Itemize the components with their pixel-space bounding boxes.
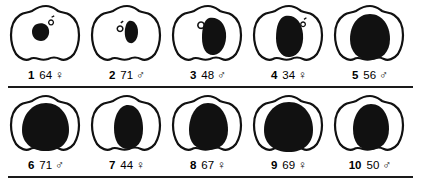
specimen-age: 44 <box>120 159 133 171</box>
specimen-8-drawing <box>168 92 248 154</box>
row-divider-1 <box>8 86 413 88</box>
specimen-1: 164♀ <box>6 0 86 86</box>
specimen-4: 434♀ <box>249 0 329 86</box>
specimen-10-drawing <box>330 92 410 154</box>
specimen-6-drawing <box>6 92 86 154</box>
specimen-number: 6 <box>28 159 34 171</box>
specimen-5: 556♂ <box>330 0 410 86</box>
specimen-age: 34 <box>282 69 295 81</box>
specimen-4-caption: 434♀ <box>249 69 329 81</box>
specimen-number: 2 <box>109 69 115 81</box>
specimen-sex-symbol: ♂ <box>55 158 64 172</box>
specimen-6: 671♂ <box>6 90 86 176</box>
specimen-sex-symbol: ♀ <box>136 158 145 172</box>
specimen-number: 3 <box>190 69 196 81</box>
specimen-fill-region <box>202 18 226 55</box>
specimen-fill-region <box>276 16 303 57</box>
specimen-fill-region <box>350 14 390 60</box>
specimen-age: 64 <box>39 69 52 81</box>
specimen-sex-symbol: ♂ <box>382 158 391 172</box>
specimen-sex-symbol: ♂ <box>217 68 226 82</box>
specimen-9-drawing <box>249 92 329 154</box>
specimen-age: 71 <box>120 69 133 81</box>
specimen-notch-icon <box>198 22 204 28</box>
specimen-age: 50 <box>367 159 380 171</box>
specimen-1-drawing <box>6 2 86 64</box>
specimen-3: 348♂ <box>168 0 248 86</box>
specimen-5-drawing <box>330 2 410 64</box>
specimen-sex-symbol: ♀ <box>298 158 307 172</box>
specimen-9: 969♀ <box>249 90 329 176</box>
specimen-sex-symbol: ♀ <box>298 68 307 82</box>
specimen-number: 8 <box>190 159 196 171</box>
specimen-8: 867♀ <box>168 90 248 176</box>
specimen-fill-region <box>189 103 228 150</box>
specimen-age: 69 <box>282 159 295 171</box>
specimen-notch-icon <box>301 18 307 27</box>
specimen-2-drawing <box>87 2 167 64</box>
specimen-4-drawing <box>249 2 329 64</box>
specimen-2: 271♂ <box>87 0 167 86</box>
specimen-number: 4 <box>271 69 277 81</box>
specimen-number: 9 <box>271 159 277 171</box>
specimen-number: 10 <box>349 159 362 171</box>
specimen-age: 71 <box>39 159 52 171</box>
row-divider-2 <box>8 176 413 178</box>
specimen-number: 5 <box>352 69 358 81</box>
specimen-number: 1 <box>28 69 34 81</box>
specimen-fill-region <box>125 21 138 43</box>
specimen-10-caption: 1050♂ <box>330 159 410 171</box>
specimen-row-2: 671♂ 744♀ 867♀ <box>0 90 421 180</box>
specimen-3-drawing <box>168 2 248 64</box>
specimen-fill-region <box>22 103 69 151</box>
specimen-age: 67 <box>201 159 214 171</box>
specimen-sex-symbol: ♂ <box>136 68 145 82</box>
specimen-notch-icon <box>49 16 55 25</box>
specimen-7-caption: 744♀ <box>87 159 167 171</box>
specimen-sex-symbol: ♀ <box>55 68 64 82</box>
specimen-9-caption: 969♀ <box>249 159 329 171</box>
specimen-5-caption: 556♂ <box>330 69 410 81</box>
figure-container: 164♀ 271♂ <box>0 0 421 194</box>
specimen-age: 56 <box>363 69 376 81</box>
specimen-number: 7 <box>109 159 115 171</box>
specimen-notch-icon <box>117 21 123 31</box>
specimen-6-caption: 671♂ <box>6 159 86 171</box>
specimen-age: 48 <box>201 69 214 81</box>
specimen-1-caption: 164♀ <box>6 69 86 81</box>
specimen-2-caption: 271♂ <box>87 69 167 81</box>
specimen-fill-region <box>114 105 143 149</box>
specimen-row-1: 164♀ 271♂ <box>0 0 421 90</box>
specimen-3-caption: 348♂ <box>168 69 248 81</box>
specimen-sex-symbol: ♀ <box>217 158 226 172</box>
specimen-sex-symbol: ♂ <box>379 68 388 82</box>
specimen-7: 744♀ <box>87 90 167 176</box>
specimen-10: 1050♂ <box>330 90 410 176</box>
specimen-8-caption: 867♀ <box>168 159 248 171</box>
specimen-fill-region <box>32 23 49 41</box>
specimen-fill-region <box>264 102 313 152</box>
specimen-7-drawing <box>87 92 167 154</box>
specimen-fill-region <box>353 104 389 150</box>
